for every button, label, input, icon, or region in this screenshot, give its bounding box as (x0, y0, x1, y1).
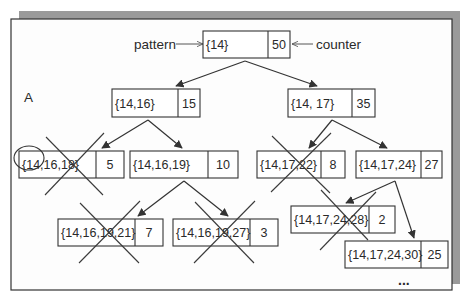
node-pattern: {14,17,24,28} (294, 213, 368, 227)
node-count: 2 (379, 213, 386, 227)
label-pattern: pattern (134, 37, 176, 52)
tree-node-root: {14}50 (203, 31, 290, 58)
node-pattern: {14,17,24} (359, 158, 416, 172)
tree-node-n14_16_19: {14,16,19}10 (130, 151, 238, 178)
node-pattern: {14,16,19,27} (176, 226, 250, 240)
node-count: 10 (216, 158, 230, 172)
continuation-ellipsis: ... (398, 272, 410, 288)
fp-tree-diagram: {14}50{14,16}15{14, 17}35{14,16,18}5{14,… (0, 0, 467, 300)
diagram-canvas: {14}50{14,16}15{14, 17}35{14,16,18}5{14,… (0, 0, 467, 300)
node-count: 50 (272, 38, 286, 52)
tree-node-n14_17_24_30: {14,17,24,30}25 (345, 241, 448, 268)
tree-node-n14_17: {14, 17}35 (288, 89, 375, 117)
node-pattern: {14,16,19,21} (61, 226, 135, 240)
label-A: A (24, 90, 33, 105)
node-count: 7 (146, 226, 153, 240)
tree-node-n14_16: {14,16}15 (112, 89, 200, 117)
node-count: 35 (357, 97, 371, 111)
node-pattern: {14,16,19} (133, 158, 190, 172)
node-count: 27 (425, 158, 439, 172)
tree-node-n14_17_24: {14,17,24}27 (356, 151, 442, 178)
node-count: 15 (182, 97, 196, 111)
tree-node-n14_17_24_28: {14,17,24,28}2 (291, 206, 395, 233)
node-pattern: {14,16} (115, 97, 155, 111)
node-pattern: {14} (206, 38, 228, 52)
node-pattern: {14,17,22} (260, 158, 317, 172)
tree-node-n14_16_19_21: {14,16,19,21}7 (58, 219, 163, 246)
tree-node-n14_16_18: {14,16,18}5 (19, 151, 124, 178)
label-counter: counter (316, 37, 362, 52)
node-pattern: {14,17,24,30} (348, 248, 422, 262)
node-pattern: {14, 17} (291, 97, 334, 111)
node-count: 25 (428, 248, 442, 262)
node-count: 8 (330, 158, 337, 172)
node-count: 5 (107, 158, 114, 172)
node-count: 3 (261, 226, 268, 240)
tree-node-n14_16_19_27: {14,16,19,27}3 (173, 219, 278, 246)
